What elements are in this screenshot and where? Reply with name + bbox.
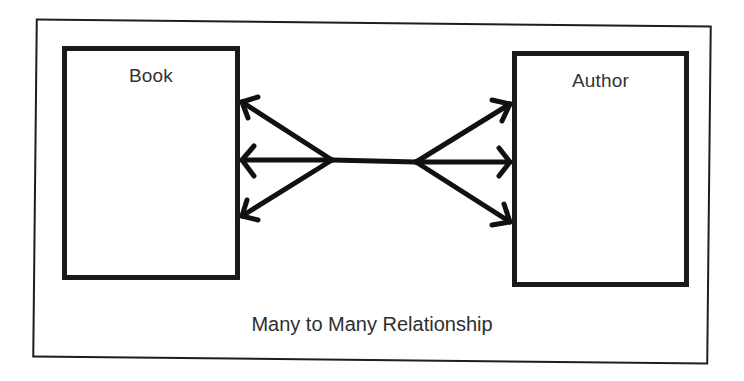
diagram-caption: Many to Many Relationship xyxy=(0,313,744,336)
entity-box-book: Book xyxy=(62,46,240,280)
entity-box-author: Author xyxy=(512,51,689,287)
diagram-canvas: Book Author xyxy=(0,0,744,381)
entity-label-book: Book xyxy=(67,65,235,87)
entity-label-author: Author xyxy=(517,70,684,92)
